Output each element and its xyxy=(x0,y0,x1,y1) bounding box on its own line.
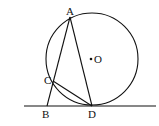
segment-ad xyxy=(70,17,92,106)
segment-cd xyxy=(53,81,92,106)
segment-ab xyxy=(47,17,70,106)
label-b: B xyxy=(42,108,49,120)
label-c: C xyxy=(44,74,51,86)
label-d: D xyxy=(88,108,96,120)
center-point-o xyxy=(90,58,93,61)
label-a: A xyxy=(66,5,74,17)
label-o: O xyxy=(94,53,102,65)
geometry-diagram: A B C D O xyxy=(0,0,159,126)
